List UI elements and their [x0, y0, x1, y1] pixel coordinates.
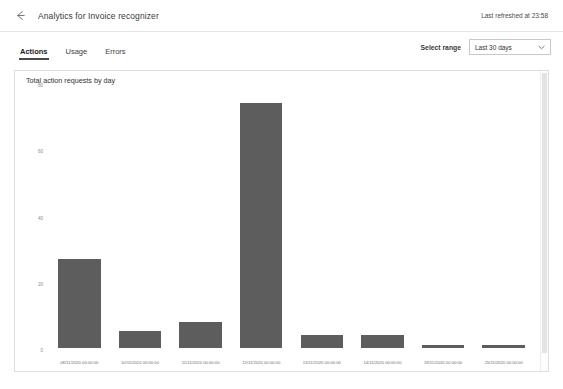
bar[interactable] [482, 345, 524, 348]
range-dropdown[interactable]: Last 30 days [469, 39, 551, 55]
y-axis-tick-label: 80 [38, 83, 43, 88]
bar[interactable] [422, 345, 464, 348]
bar[interactable] [301, 335, 343, 348]
select-range-label: Select range [421, 44, 461, 51]
chevron-down-icon [538, 45, 545, 50]
bar-column[interactable] [170, 85, 231, 348]
panel-scrollbar-thumb[interactable] [542, 73, 547, 353]
tab-usage[interactable]: Usage [66, 47, 88, 62]
range-selected-value: Last 30 days [475, 44, 512, 51]
bar[interactable] [361, 335, 403, 348]
tab-actions[interactable]: Actions [20, 47, 48, 62]
tabs-toolbar: Actions Usage Errors Select range Last 3… [0, 32, 563, 62]
chart-panel: Total action requests by day 020406080 0… [14, 70, 549, 372]
x-axis-tick-label: 14/11/2020 00:00:00 [352, 360, 413, 365]
x-axis-tick-label: 19/11/2020 00:00:00 [413, 360, 474, 365]
bar[interactable] [58, 259, 100, 348]
back-arrow-icon[interactable] [14, 9, 27, 22]
bar-chart: 020406080 08/11/2020 00:00:0010/11/2020 … [15, 85, 548, 371]
y-axis-tick-label: 0 [40, 348, 43, 353]
bar-series [49, 85, 534, 348]
last-refreshed-status: Last refreshed at 23:58 [481, 12, 552, 19]
y-axis-tick-label: 60 [38, 149, 43, 154]
y-axis: 020406080 [15, 85, 49, 371]
y-axis-tick-label: 40 [38, 215, 43, 220]
range-control: Select range Last 30 days [421, 39, 551, 55]
bar[interactable] [179, 322, 221, 349]
x-axis-tick-label: 12/11/2020 00:00:00 [231, 360, 292, 365]
x-axis-tick-label: 08/11/2020 00:00:00 [49, 360, 110, 365]
bar-column[interactable] [292, 85, 353, 348]
tab-list: Actions Usage Errors [20, 32, 126, 62]
bar-column[interactable] [49, 85, 110, 348]
x-axis-tick-label: 25/11/2020 00:00:00 [473, 360, 534, 365]
bar-column[interactable] [413, 85, 474, 348]
panel-scrollbar[interactable] [540, 71, 548, 371]
app-header: Analytics for Invoice recognizer Last re… [0, 0, 563, 31]
bar-column[interactable] [352, 85, 413, 348]
x-axis-tick-label: 11/11/2020 00:00:00 [170, 360, 231, 365]
bar-column[interactable] [110, 85, 171, 348]
x-axis: 08/11/2020 00:00:0010/11/2020 00:00:0011… [49, 360, 534, 365]
page-title: Analytics for Invoice recognizer [38, 11, 159, 21]
bar[interactable] [240, 103, 282, 348]
plot-area: 08/11/2020 00:00:0010/11/2020 00:00:0011… [49, 85, 534, 371]
tab-errors[interactable]: Errors [105, 47, 125, 62]
y-axis-tick-label: 20 [38, 281, 43, 286]
bar[interactable] [119, 331, 161, 348]
x-axis-tick-label: 13/11/2020 00:00:00 [292, 360, 353, 365]
bar-column[interactable] [231, 85, 292, 348]
x-axis-tick-label: 10/11/2020 00:00:00 [110, 360, 171, 365]
bar-column[interactable] [473, 85, 534, 348]
